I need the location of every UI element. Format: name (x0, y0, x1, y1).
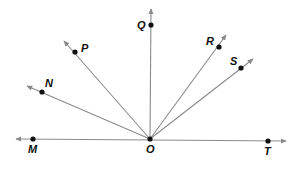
geometry-diagram: MOTNPQRS (0, 0, 298, 169)
point-r (216, 44, 221, 49)
point-o (147, 136, 152, 141)
label-r: R (206, 35, 214, 47)
label-p: P (81, 42, 89, 54)
ray-OQ (150, 9, 151, 139)
label-t: T (264, 145, 272, 157)
label-s: S (230, 55, 238, 67)
ray-OP (64, 41, 150, 139)
point-t (265, 138, 270, 143)
label-o: O (146, 143, 155, 155)
point-s (238, 65, 243, 70)
point-m (30, 136, 35, 141)
point-p (72, 49, 77, 54)
label-q: Q (137, 19, 146, 31)
point-q (148, 22, 153, 27)
ray-OS (150, 59, 253, 139)
label-m: M (28, 143, 38, 155)
point-n (39, 89, 44, 94)
ray-OR (150, 35, 226, 139)
label-n: N (45, 77, 54, 89)
ray-ON (27, 86, 150, 139)
